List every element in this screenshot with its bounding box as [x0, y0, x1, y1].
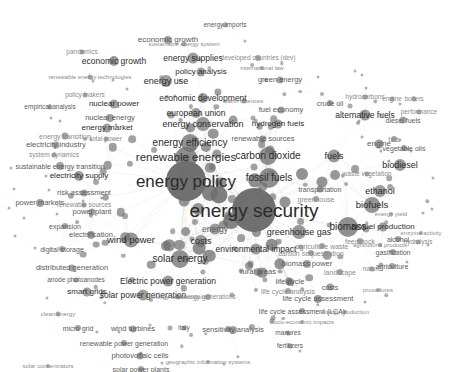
graph-node-label: energy policy	[136, 173, 236, 190]
graph-node-label: carbon dioxide	[235, 151, 300, 161]
graph-node-label: solar power plants	[113, 366, 170, 372]
graph-node-label: nuclear power	[89, 100, 139, 108]
graph-node-label: energy conservation	[151, 294, 205, 300]
graph-node-label: renewable sources	[232, 135, 295, 143]
graph-node-label: landscape	[324, 269, 356, 276]
graph-node-label: hydrocarbons	[345, 94, 384, 101]
graph-node-label: economic development	[159, 94, 246, 103]
graph-node-label: nuclear energy	[85, 114, 135, 122]
network-labels: energy securityenergy policyrenewable en…	[0, 0, 470, 372]
graph-node-label: fats	[388, 136, 399, 143]
graph-node-label: energy market	[81, 124, 132, 132]
graph-node-label: socio-economic impacts	[270, 319, 334, 325]
graph-node-label: ethanol	[365, 187, 395, 196]
graph-node-label: life cycle	[276, 278, 305, 286]
graph-node-label: energy supplies	[163, 54, 223, 63]
graph-node-label: gasification	[375, 249, 410, 256]
graph-node-label: anode photoanodes	[47, 277, 104, 284]
graph-node-label: vegetable oils	[383, 145, 426, 152]
graph-node-label: enzyme activity	[400, 230, 441, 236]
graph-node-label: energy generations	[180, 294, 236, 301]
graph-node-label: distributed generation	[36, 264, 108, 272]
graph-node-label: engine	[382, 96, 402, 103]
graph-node-label: fuel economy	[259, 106, 304, 114]
graph-node-label: smart grids	[67, 288, 107, 296]
graph-node-label: energy use	[144, 77, 189, 86]
graph-node-label: greenhouse	[298, 196, 335, 203]
graph-node-label: solar power generation	[100, 291, 186, 300]
graph-node-label: life cycle analysis	[261, 288, 315, 295]
graph-node-label: hydrogen fuels	[252, 120, 304, 128]
graph-node-label: manures	[275, 330, 300, 337]
graph-node-label: carbon sequestration	[278, 250, 343, 257]
graph-node-label: engine	[367, 140, 391, 148]
graph-node-label: alcohol	[387, 236, 409, 243]
graph-node-label: procedures	[363, 287, 393, 293]
graph-node-label: pandemics	[66, 49, 97, 56]
graph-node-label: electricity supply	[50, 172, 109, 180]
graph-node-label: earth sciences	[225, 98, 264, 104]
graph-node-label: sustainable energy transition	[15, 163, 104, 170]
graph-node-label: energy imports	[204, 22, 247, 29]
graph-node-label: system dynamics	[29, 152, 79, 159]
graph-node-label: empirical analysis	[24, 104, 75, 111]
graph-node-label: digital storage	[40, 246, 84, 253]
graph-node-label: developed countries (dev)	[221, 55, 296, 62]
graph-node-label: international law	[240, 65, 283, 71]
graph-node-label: renewable power generation	[80, 340, 168, 347]
graph-node-label: diesel fuels	[385, 117, 420, 124]
graph-node-label: Electric power generation	[120, 277, 216, 286]
graph-node-label: performance	[401, 109, 438, 116]
graph-node-label: renewable energies	[136, 152, 236, 164]
graph-node-label: energy yield	[375, 211, 407, 217]
graph-node-label: crude oil	[317, 100, 343, 107]
graph-node-label: biofuel production	[351, 223, 414, 231]
graph-node-label: life cycle assessment (LCA)	[259, 308, 345, 315]
graph-node-label: policy makers	[65, 92, 105, 99]
graph-node-label: boilers	[404, 96, 423, 103]
graph-node-label: solar energy	[152, 254, 207, 264]
graph-node-label: geographic information systems	[166, 359, 251, 365]
graph-node-label: economic growth	[138, 36, 198, 44]
graph-node-label: energy production	[321, 309, 369, 315]
graph-node-label: costs	[322, 284, 338, 291]
graph-node-label: european union	[166, 109, 225, 118]
graph-node-label: green energy	[258, 76, 302, 84]
graph-node-label: renewable sources	[57, 202, 112, 209]
graph-node-label: alternative fuels	[335, 111, 395, 120]
graph-node-label: electricity industry	[26, 141, 86, 149]
graph-node-label: power markets	[15, 199, 64, 207]
graph-node-label: electrification	[69, 231, 113, 239]
graph-node-label: fossil fuels	[246, 173, 293, 183]
graph-node-label: greenhouse gas	[267, 228, 332, 237]
graph-node-label: agriculture waste	[296, 243, 349, 250]
graph-node-label: energy security	[190, 201, 319, 220]
graph-node-label: power plant	[73, 208, 112, 216]
graph-node-label: total power	[90, 136, 122, 143]
graph-node-label: micro grid	[63, 325, 94, 332]
graph-node-label: policy analysis	[175, 68, 227, 76]
graph-node-label: fuels	[324, 152, 343, 161]
graph-node-label: transportation	[299, 186, 342, 193]
graph-node-label: expansion	[49, 223, 81, 230]
graph-node-label: costs	[190, 237, 211, 246]
graph-node-label: biomass power	[282, 260, 332, 268]
network-map: energy securityenergy policyrenewable en…	[0, 0, 470, 372]
graph-node-label: energy transition	[39, 133, 91, 140]
graph-node-label: photovoltaic cells	[111, 352, 168, 360]
graph-node-label: biofuels	[356, 200, 389, 210]
graph-node-label: clean energy	[41, 311, 75, 317]
graph-node-label: nature	[363, 266, 381, 273]
graph-node-label: energy conservation	[162, 120, 243, 129]
graph-node-label: fertilizers	[277, 343, 303, 350]
graph-node-label: wind turbines	[111, 325, 155, 333]
graph-node-label: sensitivity analysis	[202, 326, 264, 334]
graph-node-label: hydrolysis	[404, 239, 433, 246]
graph-node-label: agriculture	[376, 263, 409, 270]
graph-node-label: biomass	[329, 222, 366, 232]
graph-node-label: sustainable energy system	[148, 41, 219, 47]
graph-node-label: biodiesel	[382, 161, 418, 170]
graph-node-label: feedstock	[345, 238, 375, 245]
graph-node-label: economic growth	[82, 57, 146, 66]
graph-node-label: wind power	[107, 235, 155, 245]
